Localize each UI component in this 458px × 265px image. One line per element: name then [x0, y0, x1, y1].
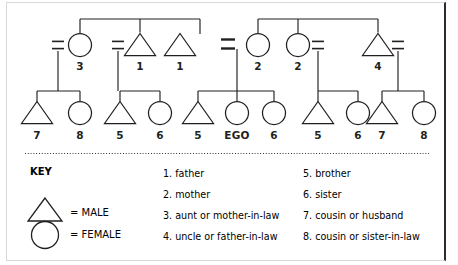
parent-node-label: 4 — [374, 60, 381, 72]
key-title: KEY — [30, 166, 52, 177]
parent-triangle-male — [125, 34, 156, 56]
child-node-label: 5 — [116, 129, 123, 141]
key-male-equals: = — [70, 207, 78, 218]
kinship-diagram-figure: 311224 78565EGO65678 KEY = MALE = FEMALE… — [0, 0, 458, 265]
parent-node-label: 3 — [76, 60, 83, 72]
child-triangle-male — [183, 102, 214, 124]
child-node-label: 7 — [33, 129, 40, 141]
child-node-label: 8 — [76, 129, 83, 141]
child-sibling-bars — [37, 91, 424, 102]
marriage-equals-marks — [52, 40, 404, 49]
parent-circle-female — [247, 34, 270, 57]
legend-item: 5. brother — [303, 163, 420, 184]
legend-column-left: 1. father2. mother3. aunt or mother-in-l… — [163, 163, 279, 247]
ego-label: EGO — [224, 129, 249, 141]
parent-node-label: 2 — [254, 60, 261, 72]
parent-node-label: 1 — [136, 60, 143, 72]
child-circle-female — [263, 102, 286, 125]
legend-item: 7. cousin or husband — [303, 205, 420, 226]
child-row-symbols — [22, 102, 436, 125]
key-male-triangle-icon — [28, 198, 62, 221]
child-node-label: 5 — [314, 129, 321, 141]
parent-triangle-male — [165, 34, 196, 56]
key-male-label: = MALE — [70, 207, 109, 218]
key-male-text: MALE — [82, 207, 109, 218]
legend-item: 3. aunt or mother-in-law — [163, 205, 279, 226]
child-circle-female — [226, 102, 249, 125]
child-circle-female — [413, 102, 436, 125]
child-triangle-male — [22, 102, 53, 124]
descent-stems — [58, 49, 398, 91]
parent-circle-female — [287, 34, 310, 57]
child-node-label: 8 — [420, 129, 427, 141]
legend-item: 6. sister — [303, 184, 420, 205]
key-female-equals: = — [70, 229, 78, 240]
parent-row-labels: 311224 — [76, 60, 381, 72]
legend-item: 1. father — [163, 163, 279, 184]
child-row-labels: 78565EGO65678 — [33, 129, 427, 141]
parent-node-label: 1 — [176, 60, 183, 72]
child-node-label: 5 — [194, 129, 201, 141]
key-female-text: FEMALE — [82, 229, 121, 240]
key-female-label: = FEMALE — [70, 229, 121, 240]
legend-item: 8. cousin or sister-in-law — [303, 226, 420, 247]
child-triangle-male — [367, 102, 398, 124]
child-node-label: 7 — [378, 129, 385, 141]
key-female-circle-icon — [32, 222, 59, 249]
parent-circle-female — [69, 34, 92, 57]
child-node-label: 6 — [354, 129, 361, 141]
child-node-label: 6 — [156, 129, 163, 141]
parent-triangle-male — [363, 34, 394, 56]
child-circle-female — [69, 102, 92, 125]
parent-row-symbols — [69, 34, 394, 57]
child-circle-female — [149, 102, 172, 125]
legend-column-right: 5. brother6. sister7. cousin or husband8… — [303, 163, 420, 247]
child-triangle-male — [105, 102, 136, 124]
legend-item: 4. uncle or father-in-law — [163, 226, 279, 247]
legend-item: 2. mother — [163, 184, 279, 205]
child-node-label: 6 — [270, 129, 277, 141]
child-triangle-male — [303, 102, 334, 124]
child-circle-female — [347, 102, 370, 125]
parent-node-label: 2 — [294, 60, 301, 72]
top-sibling-bars — [80, 19, 378, 34]
